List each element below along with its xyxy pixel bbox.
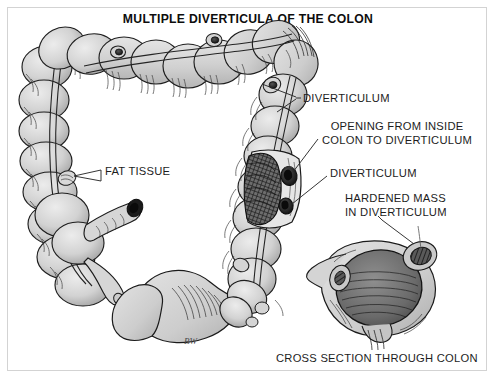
diverticulum-transverse-2 bbox=[206, 34, 222, 47]
cut-bowel-stump bbox=[84, 197, 146, 241]
colon-body bbox=[19, 14, 440, 350]
label-diverticulum-upper: DIVERTICULUM bbox=[303, 92, 390, 106]
figure-caption: CROSS SECTION THROUGH COLON bbox=[276, 352, 478, 364]
illustration-page: MULTIPLE DIVERTICULA OF THE COLON bbox=[0, 0, 496, 380]
artist-signature: BW bbox=[184, 336, 197, 346]
label-opening-from-inside: OPENING FROM INSIDE COLON TO DIVERTICULU… bbox=[322, 120, 472, 147]
label-fat-tissue: FAT TISSUE bbox=[105, 165, 170, 179]
diverticulum-transverse bbox=[111, 46, 126, 58]
colon-illustration bbox=[0, 0, 496, 380]
cross-section-diverticulum-inferior bbox=[362, 324, 392, 350]
label-diverticulum-lower: DIVERTICULUM bbox=[330, 167, 417, 181]
cross-section-inset bbox=[307, 226, 441, 350]
hardened-mass-in-lumen bbox=[244, 153, 281, 224]
colon-cutaway-window bbox=[244, 150, 301, 228]
label-hardened-mass: HARDENED MASS IN DIVERTICULUM bbox=[345, 192, 447, 219]
